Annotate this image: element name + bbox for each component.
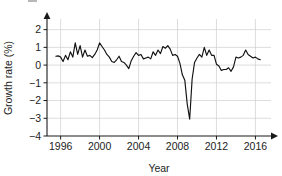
x-tick-label: 2012 <box>205 140 229 152</box>
x-tick-label: 1996 <box>49 140 73 152</box>
y-tick-label: 1 <box>35 41 41 53</box>
y-tick-label: 0 <box>35 59 41 71</box>
x-axis-title: Year <box>148 162 170 174</box>
growth-rate-line-chart: 199620002004200820122016 −4−3−2−1012 Yea… <box>0 0 282 176</box>
x-tick-label: 2008 <box>166 140 190 152</box>
y-axis-title: Growth rate (%) <box>2 41 14 115</box>
cropped-edge-artifact <box>28 0 37 2</box>
x-tick-label: 2004 <box>127 140 151 152</box>
y-tick-label: −3 <box>29 112 41 124</box>
x-tick-label: 2000 <box>88 140 112 152</box>
y-tick-label: −4 <box>29 130 41 142</box>
x-tick-label: 2016 <box>244 140 268 152</box>
y-tick-label: −1 <box>29 77 41 89</box>
y-tick-label: 2 <box>35 23 41 35</box>
chart-figure: 199620002004200820122016 −4−3−2−1012 Yea… <box>0 0 282 176</box>
y-tick-label: −2 <box>29 94 41 106</box>
